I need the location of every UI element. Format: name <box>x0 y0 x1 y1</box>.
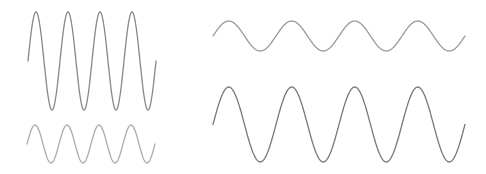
sine-wave-top-right <box>213 21 465 51</box>
sine-wave-bottom-left <box>27 125 155 163</box>
sine-wave-top-left <box>28 12 156 110</box>
waves-svg <box>0 0 486 174</box>
sine-wave-diagram <box>0 0 486 174</box>
sine-wave-bottom-right <box>213 87 465 162</box>
